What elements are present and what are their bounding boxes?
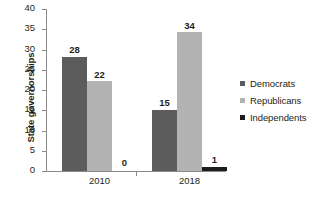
bar-label-2018-independents: 1 — [202, 154, 227, 165]
legend-swatch-democrats-icon — [240, 81, 245, 86]
y-tick-label-30: 30 — [0, 43, 35, 54]
bar-chart: State governorships 40 35 30 25 20 15 10… — [0, 0, 327, 198]
y-tick-10: 10 — [42, 131, 46, 132]
y-tick-25: 25 — [42, 70, 46, 71]
legend-item-independents: Independents — [240, 109, 327, 126]
y-tick-15: 15 — [42, 110, 46, 111]
y-tick-35: 35 — [42, 29, 46, 30]
legend-label-democrats: Democrats — [250, 78, 295, 89]
legend-label-independents: Independents — [250, 112, 306, 123]
bar-2018-democrats — [152, 110, 177, 171]
y-tick-label-0: 0 — [0, 164, 35, 175]
y-tick-label-35: 35 — [0, 22, 35, 33]
legend: Democrats Republicans Independents — [240, 75, 327, 126]
bar-2018-republicans — [177, 32, 202, 171]
y-tick-label-15: 15 — [0, 103, 35, 114]
legend-item-democrats: Democrats — [240, 75, 327, 92]
y-tick-label-25: 25 — [0, 63, 35, 74]
plot-area: 40 35 30 25 20 15 10 5 0 28 22 — [46, 9, 226, 172]
bar-2018-independents — [202, 167, 227, 171]
bar-label-2010-republicans: 22 — [87, 69, 112, 80]
x-axis-label-2010: 2010 — [62, 175, 137, 186]
y-tick-5: 5 — [42, 151, 46, 152]
y-tick-label-40: 40 — [0, 2, 35, 13]
y-axis-line — [46, 9, 47, 172]
x-axis-label-2018: 2018 — [152, 175, 227, 186]
legend-swatch-republicans-icon — [240, 98, 245, 103]
y-tick-label-20: 20 — [0, 83, 35, 94]
bar-label-2018-republicans: 34 — [177, 20, 202, 31]
legend-swatch-independents-icon — [240, 115, 245, 120]
y-tick-40: 40 — [42, 9, 46, 10]
legend-item-republicans: Republicans — [240, 92, 327, 109]
bar-2010-democrats — [62, 57, 87, 171]
bar-2010-republicans — [87, 81, 112, 171]
bar-label-2010-independents: 0 — [112, 157, 137, 168]
y-tick-label-10: 10 — [0, 124, 35, 135]
bar-label-2010-democrats: 28 — [62, 44, 87, 55]
y-tick-20: 20 — [42, 90, 46, 91]
legend-label-republicans: Republicans — [250, 95, 301, 106]
y-tick-0: 0 — [42, 171, 46, 172]
bar-label-2018-democrats: 15 — [152, 97, 177, 108]
y-tick-30: 30 — [42, 50, 46, 51]
y-tick-label-5: 5 — [0, 144, 35, 155]
